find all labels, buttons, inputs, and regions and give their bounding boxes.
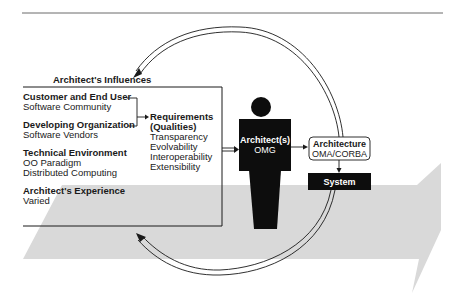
- requirements-arrowhead: [145, 115, 149, 120]
- architect-to-architecture-arrowhead: [303, 145, 308, 150]
- architecture-label-block: Architecture OMA/CORBA: [309, 139, 370, 159]
- influence-detail: Distributed Computing: [23, 168, 127, 178]
- influences-title: Architect's Influences: [53, 75, 151, 85]
- architecture-to-system-arrowhead: [337, 168, 342, 173]
- architect-head: [251, 97, 271, 117]
- architect-sublabel: OMG: [239, 145, 291, 155]
- influence-detail: Varied: [23, 196, 125, 206]
- flow-arrow-band: [23, 163, 441, 293]
- architecture-label: Architecture: [309, 139, 370, 149]
- requirement-item: Extensibility: [150, 162, 213, 172]
- architect-label-block: Architect(s) OMG: [239, 135, 291, 155]
- system-label-block: System: [308, 177, 371, 187]
- influence-detail: Software Community: [23, 102, 131, 112]
- influence-technical: Technical Environment OO Paradigm Distri…: [23, 148, 127, 178]
- requirements-block: Requirements (Qualities) Transparency Ev…: [150, 112, 213, 172]
- influence-developing: Developing Organization Software Vendors: [23, 120, 135, 140]
- architect-label: Architect(s): [239, 135, 291, 145]
- influence-experience: Architect's Experience Varied: [23, 186, 125, 206]
- influence-detail: Software Vendors: [23, 130, 135, 140]
- influence-customer: Customer and End User Software Community: [23, 92, 131, 112]
- system-label: System: [308, 177, 371, 187]
- architect-legs: [249, 170, 281, 229]
- architecture-sublabel: OMA/CORBA: [309, 149, 370, 159]
